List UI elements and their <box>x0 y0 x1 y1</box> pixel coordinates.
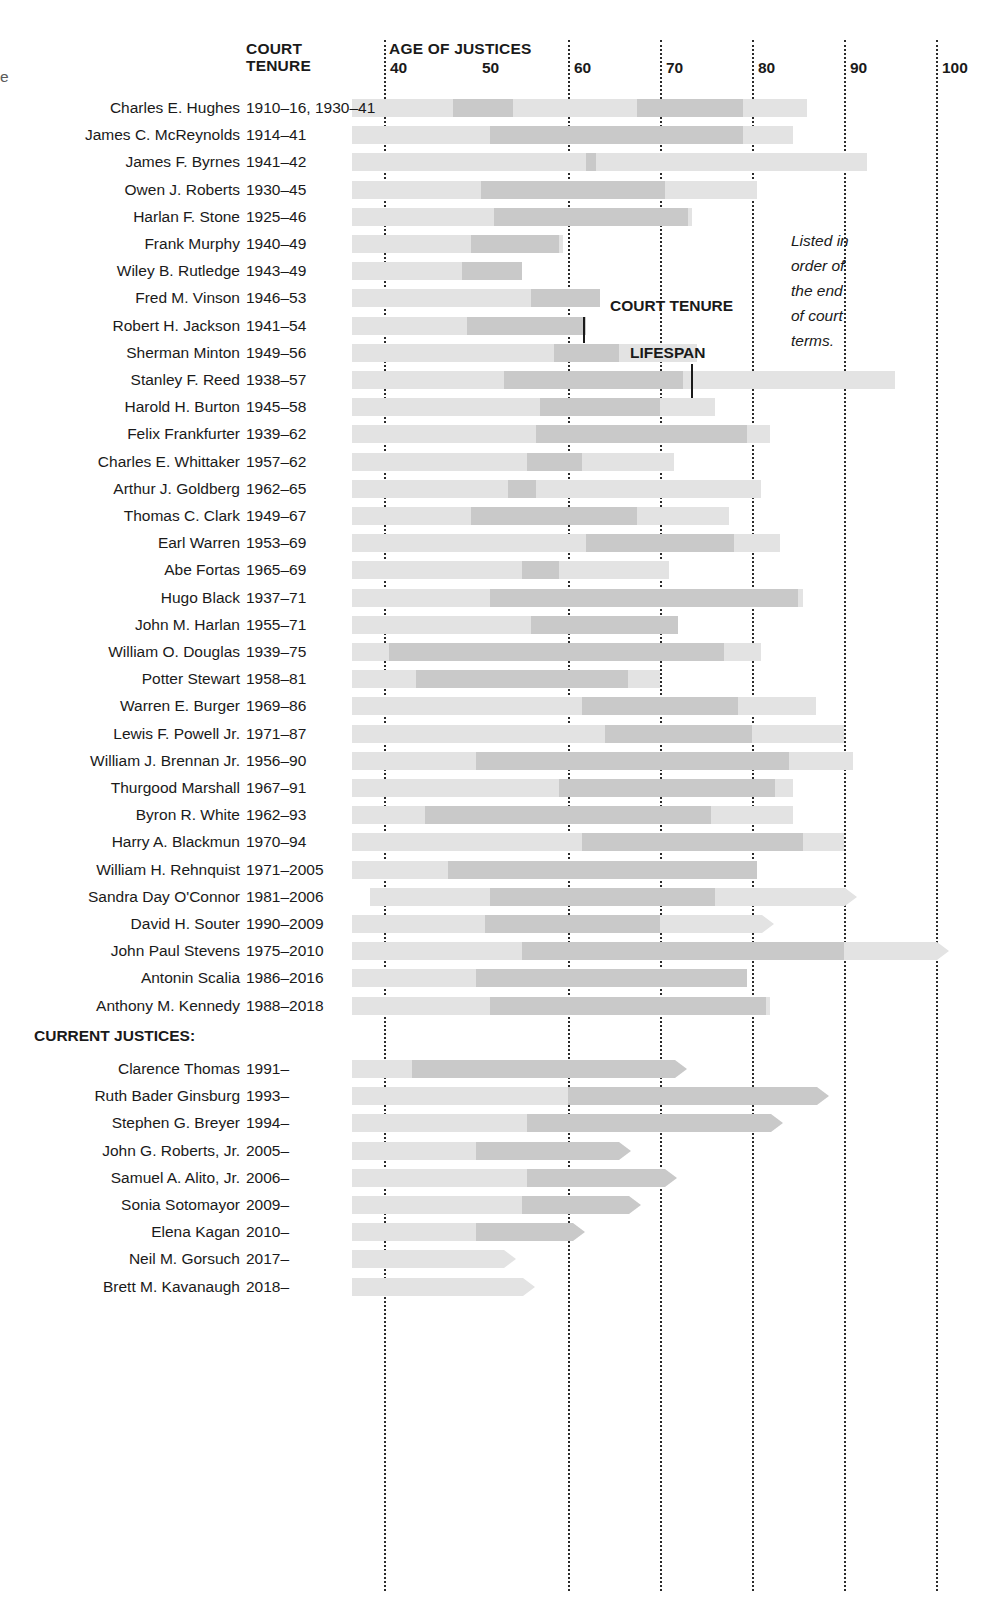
justice-court-tenure: 1988–2018 <box>246 992 324 1019</box>
tenure-bar-0 <box>522 942 844 960</box>
justice-name: Wiley B. Rutledge <box>0 257 240 284</box>
ordering-note-line-5: terms. <box>791 328 849 353</box>
justice-name: Frank Murphy <box>0 230 240 257</box>
table-row[interactable]: David H. Souter1990–2009 <box>0 910 1007 937</box>
tenure-bar-1 <box>637 99 743 117</box>
tenure-bar-0 <box>425 806 710 824</box>
justice-name: James F. Byrnes <box>0 148 240 175</box>
tenure-bar-0 <box>504 371 683 389</box>
tenure-bar-0 <box>536 425 748 443</box>
living-arrow-tip <box>619 1191 641 1219</box>
justice-name: John G. Roberts, Jr. <box>0 1137 240 1164</box>
tenure-bar-0 <box>568 1087 807 1105</box>
table-row[interactable]: Thomas C. Clark1949–67 <box>0 502 1007 529</box>
table-row[interactable]: Fred M. Vinson1946–53 <box>0 284 1007 311</box>
table-row[interactable]: Ruth Bader Ginsburg1993– <box>0 1082 1007 1109</box>
table-row[interactable]: Frank Murphy1940–49 <box>0 230 1007 257</box>
justice-court-tenure: 1914–41 <box>246 121 306 148</box>
table-row[interactable]: John M. Harlan1955–71 <box>0 611 1007 638</box>
table-row[interactable]: Stanley F. Reed1938–57 <box>0 366 1007 393</box>
tenure-bar-0 <box>527 1114 762 1132</box>
table-row[interactable]: Anthony M. Kennedy1988–2018 <box>0 992 1007 1019</box>
justice-court-tenure: 2006– <box>246 1164 289 1191</box>
table-row[interactable]: John G. Roberts, Jr.2005– <box>0 1137 1007 1164</box>
justice-court-tenure: 1957–62 <box>246 448 306 475</box>
table-row[interactable]: Wiley B. Rutledge1943–49 <box>0 257 1007 284</box>
justice-court-tenure: 1990–2009 <box>246 910 324 937</box>
ordering-note-line-1: Listed in <box>791 228 849 253</box>
justice-court-tenure: 2005– <box>246 1137 289 1164</box>
table-row[interactable]: Charles E. Whittaker1957–62 <box>0 448 1007 475</box>
justice-court-tenure: 1940–49 <box>246 230 306 257</box>
lifespan-bar <box>352 453 674 471</box>
table-row[interactable]: Harry A. Blackmun1970–94 <box>0 828 1007 855</box>
table-row[interactable]: Byron R. White1962–93 <box>0 801 1007 828</box>
tenure-bar-0 <box>527 1169 656 1187</box>
justice-name: Lewis F. Powell Jr. <box>0 720 240 747</box>
justice-name: Hugo Black <box>0 584 240 611</box>
justice-court-tenure: 1949–67 <box>246 502 306 529</box>
table-row[interactable]: Thurgood Marshall1967–91 <box>0 774 1007 801</box>
table-row[interactable]: Harold H. Burton1945–58 <box>0 393 1007 420</box>
justice-court-tenure: 1969–86 <box>246 692 306 719</box>
lifespan-leader-line <box>691 364 693 398</box>
table-row[interactable]: Clarence Thomas1991– <box>0 1055 1007 1082</box>
justice-name: William H. Rehnquist <box>0 856 240 883</box>
justice-court-tenure: 1910–16, 1930–41 <box>246 94 375 121</box>
ordering-note-line-2: order of <box>791 253 849 278</box>
living-arrow-tip <box>494 1245 516 1273</box>
justice-court-tenure: 1937–71 <box>246 584 306 611</box>
lifespan-bar <box>352 725 844 743</box>
tenure-bar-0 <box>476 969 747 987</box>
table-row[interactable]: Harlan F. Stone1925–46 <box>0 203 1007 230</box>
justice-name: Fred M. Vinson <box>0 284 240 311</box>
justice-name: Charles E. Hughes <box>0 94 240 121</box>
justice-name: Brett M. Kavanaugh <box>0 1273 240 1300</box>
table-row[interactable]: Elena Kagan2010– <box>0 1218 1007 1245</box>
table-row[interactable]: William H. Rehnquist1971–2005 <box>0 856 1007 883</box>
table-row[interactable]: Sherman Minton1949–56 <box>0 339 1007 366</box>
justice-name: Stanley F. Reed <box>0 366 240 393</box>
table-row[interactable]: Hugo Black1937–71 <box>0 584 1007 611</box>
justice-name: Abe Fortas <box>0 556 240 583</box>
tenure-bar-0 <box>522 561 559 579</box>
tenure-bar-0 <box>476 752 789 770</box>
table-row[interactable]: Robert H. Jackson1941–54 <box>0 312 1007 339</box>
table-row[interactable]: Felix Frankfurter1939–62 <box>0 420 1007 447</box>
tenure-bar-0 <box>467 317 587 335</box>
table-row[interactable]: Sandra Day O'Connor1981–2006 <box>0 883 1007 910</box>
table-row[interactable]: Earl Warren1953–69 <box>0 529 1007 556</box>
table-row[interactable]: Neil M. Gorsuch2017– <box>0 1245 1007 1272</box>
table-row[interactable]: Owen J. Roberts1930–45 <box>0 176 1007 203</box>
justice-court-tenure: 2010– <box>246 1218 289 1245</box>
justice-name: John M. Harlan <box>0 611 240 638</box>
table-row[interactable]: Arthur J. Goldberg1962–65 <box>0 475 1007 502</box>
table-row[interactable]: Warren E. Burger1969–86 <box>0 692 1007 719</box>
table-row[interactable]: James C. McReynolds1914–41 <box>0 121 1007 148</box>
justice-court-tenure: 1958–81 <box>246 665 306 692</box>
table-row[interactable]: Sonia Sotomayor2009– <box>0 1191 1007 1218</box>
table-row[interactable]: James F. Byrnes1941–42 <box>0 148 1007 175</box>
ordering-note-line-4: of court <box>791 303 849 328</box>
justice-court-tenure: 1971–2005 <box>246 856 324 883</box>
table-row[interactable]: Stephen G. Breyer1994– <box>0 1109 1007 1136</box>
table-row[interactable]: Brett M. Kavanaugh2018– <box>0 1273 1007 1300</box>
justice-name: Antonin Scalia <box>0 964 240 991</box>
justice-court-tenure: 1981–2006 <box>246 883 324 910</box>
tenure-bar-0 <box>416 670 628 688</box>
table-row[interactable]: Antonin Scalia1986–2016 <box>0 964 1007 991</box>
table-row[interactable]: Lewis F. Powell Jr.1971–87 <box>0 720 1007 747</box>
justice-name: Arthur J. Goldberg <box>0 475 240 502</box>
tenure-bar-0 <box>490 589 798 607</box>
table-row[interactable]: John Paul Stevens1975–2010 <box>0 937 1007 964</box>
table-row[interactable]: Potter Stewart1958–81 <box>0 665 1007 692</box>
tenure-bar-0 <box>485 915 660 933</box>
table-row[interactable]: Charles E. Hughes1910–16, 1930–41 <box>0 94 1007 121</box>
table-row[interactable]: Abe Fortas1965–69 <box>0 556 1007 583</box>
justice-name: Samuel A. Alito, Jr. <box>0 1164 240 1191</box>
justice-name: Sandra Day O'Connor <box>0 883 240 910</box>
tenure-bar-0 <box>490 888 715 906</box>
table-row[interactable]: William J. Brennan Jr.1956–90 <box>0 747 1007 774</box>
table-row[interactable]: William O. Douglas1939–75 <box>0 638 1007 665</box>
table-row[interactable]: Samuel A. Alito, Jr.2006– <box>0 1164 1007 1191</box>
